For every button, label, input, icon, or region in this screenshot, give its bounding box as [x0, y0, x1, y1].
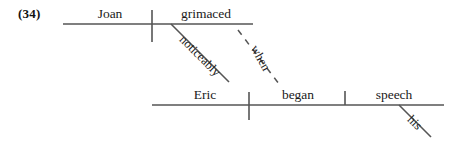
- sentence-diagram-figure: (34) Joan grimaced Eric began speech not…: [0, 0, 461, 143]
- word-eric: Eric: [194, 87, 217, 103]
- word-joan: Joan: [98, 6, 123, 22]
- word-began: began: [282, 87, 314, 103]
- word-speech: speech: [376, 87, 413, 103]
- word-grimaced: grimaced: [181, 6, 231, 22]
